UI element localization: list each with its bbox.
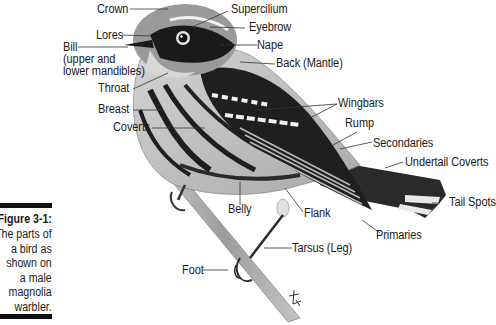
caption-rule-top [0,203,52,208]
label-rump: Rump [345,117,374,130]
label-foot: Foot [182,264,204,277]
label-nape: Nape [257,39,283,52]
label-belly: Belly [228,203,251,216]
caption-line: The parts of [0,227,52,242]
label-coverts: Coverts [113,121,150,134]
label-lores: Lores [96,29,123,42]
label-flank: Flank [304,207,330,220]
label-secondaries: Secondaries [373,137,433,150]
label-bill-detail-2: lower mandibles) [63,65,145,78]
label-eyebrow: Eyebrow [249,21,291,34]
label-tail-spots: Tail Spots [449,196,496,209]
label-tarsus: Tarsus (Leg) [292,242,352,255]
caption-line: magnolia [0,285,52,300]
label-back: Back (Mantle) [276,57,343,70]
caption-title: Figure 3-1: [0,212,52,226]
label-undertail-coverts: Undertail Coverts [405,156,488,169]
artist-signature [289,290,301,306]
caption-line: warbler. [0,300,52,315]
caption-line: a male [0,271,52,286]
caption-rule-bottom [0,314,52,319]
label-supercilium: Supercilium [231,3,287,16]
label-throat: Throat [98,82,129,95]
bird-anatomy-figure: Crown Supercilium Lores Eyebrow Bill (up… [0,0,496,325]
label-breast: Breast [98,103,129,116]
caption-line: shown on [0,256,52,271]
caption-text: The parts of a bird as shown on a male m… [0,227,52,314]
label-primaries: Primaries [376,229,422,242]
label-crown: Crown [97,3,128,16]
label-wingbars: Wingbars [338,97,384,110]
caption-line: a bird as [0,242,52,257]
